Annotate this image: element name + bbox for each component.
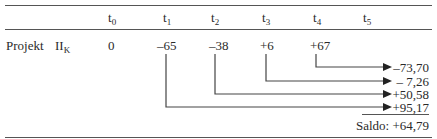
compounded-value-t4: –73,70: [393, 61, 429, 74]
compounded-value-t1: +95,17: [392, 101, 429, 114]
bottom-rule: [5, 137, 432, 138]
sum-rule: [362, 114, 429, 115]
saldo: Saldo: +64,79: [356, 119, 429, 132]
